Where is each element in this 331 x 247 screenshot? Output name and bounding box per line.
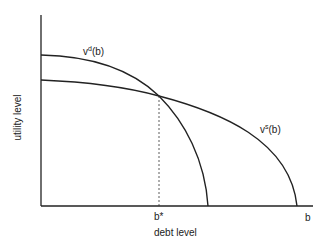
x-axis-label: debt level	[154, 227, 197, 238]
bstar-tick-label: b*	[154, 211, 163, 222]
vd-curve	[41, 55, 208, 206]
debt-utility-diagram: utility level vd(b) vs(b) b* b debt leve…	[0, 0, 331, 247]
vs-label: vs(b)	[260, 123, 281, 135]
vd-label: vd(b)	[83, 45, 104, 57]
y-axis-label: utility level	[12, 94, 23, 140]
vs-curve	[41, 80, 297, 206]
b-tick-label: b	[305, 212, 311, 223]
diagram-canvas	[0, 0, 331, 247]
